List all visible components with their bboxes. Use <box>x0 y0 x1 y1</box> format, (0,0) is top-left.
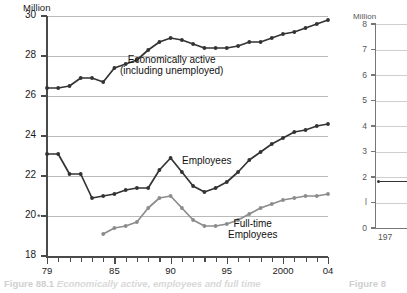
series-marker <box>45 86 49 90</box>
series-marker <box>68 172 72 176</box>
series-marker <box>135 220 139 224</box>
series-marker <box>236 44 240 48</box>
main-chart: Million 18202224262830 79859095200004 * … <box>0 0 345 270</box>
series-label-fulltime-line2: Employees <box>228 229 277 240</box>
series-marker <box>124 188 128 192</box>
side-gridline <box>376 152 407 153</box>
series-marker <box>56 86 60 90</box>
series-marker <box>304 194 308 198</box>
side-chart-y-axis <box>375 24 376 228</box>
series-label-economically-active-line2: (including unemployed) <box>120 65 223 76</box>
side-y-tick-label: 5 <box>353 96 367 104</box>
series-marker <box>247 212 251 216</box>
series-marker <box>113 226 117 230</box>
side-y-tick-label: 4 <box>353 122 367 130</box>
series-marker <box>281 32 285 36</box>
series-marker <box>259 40 263 44</box>
series-marker <box>315 124 319 128</box>
series-marker <box>326 18 330 22</box>
series-marker <box>101 80 105 84</box>
series-marker <box>191 218 195 222</box>
series-marker <box>101 232 105 236</box>
side-y-tick-label: 2 <box>353 173 367 181</box>
side-gridline <box>376 177 407 178</box>
series-marker <box>326 192 330 196</box>
series-marker <box>214 46 218 50</box>
side-y-tick-label: 0 <box>353 224 367 232</box>
series-marker <box>180 170 184 174</box>
series-marker <box>292 30 296 34</box>
series-marker <box>225 180 229 184</box>
series-marker <box>90 196 94 200</box>
series-marker <box>304 26 308 30</box>
series-label-employees: Employees <box>182 156 231 167</box>
series-marker <box>191 42 195 46</box>
series-marker <box>191 184 195 188</box>
series-marker <box>158 196 162 200</box>
side-chart: Million 8765432l0 197 <box>345 0 407 270</box>
series-marker <box>113 192 117 196</box>
series-label-fulltime-employees: Full-time Employees <box>228 219 277 240</box>
series-marker <box>214 224 218 228</box>
side-y-tick-label: l <box>353 198 367 206</box>
series-marker <box>225 46 229 50</box>
side-y-tick-label: 3 <box>353 147 367 155</box>
side-chart-x-axis <box>375 228 407 229</box>
series-marker <box>180 206 184 210</box>
figure-caption-side: Figure 8 <box>349 278 386 289</box>
series-marker <box>180 38 184 42</box>
figure-caption-text: Economically active, employees and full … <box>57 278 261 289</box>
series-marker <box>203 224 207 228</box>
side-gridline <box>376 50 407 51</box>
series-marker <box>270 142 274 146</box>
series-marker <box>326 122 330 126</box>
figure-caption-side-number: Figure 8 <box>349 278 386 289</box>
side-y-tick-label: 8 <box>353 20 367 28</box>
series-marker <box>124 224 128 228</box>
series-marker <box>281 198 285 202</box>
side-gridline <box>376 126 407 127</box>
series-marker <box>304 128 308 132</box>
series-marker <box>203 190 207 194</box>
side-gridline <box>376 75 407 76</box>
series-marker <box>169 194 173 198</box>
series-marker <box>146 206 150 210</box>
side-chart-series-segment <box>380 181 407 182</box>
series-label-economically-active-line1: Economically active <box>128 54 216 65</box>
series-marker <box>45 152 49 156</box>
series-marker <box>113 66 117 70</box>
series-marker <box>146 48 150 52</box>
series-marker <box>270 36 274 40</box>
series-marker <box>169 36 173 40</box>
series-marker <box>146 186 150 190</box>
series-label-economically-active: Economically active (including unemploye… <box>120 55 223 76</box>
series-marker <box>270 202 274 206</box>
series-marker <box>259 150 263 154</box>
series-marker <box>79 172 83 176</box>
series-marker <box>169 156 173 160</box>
series-marker <box>158 40 162 44</box>
side-gridline <box>376 24 407 25</box>
series-marker <box>135 186 139 190</box>
series-marker <box>236 170 240 174</box>
series-marker <box>79 76 83 80</box>
series-marker <box>203 46 207 50</box>
figure-caption-main: Figure 88.1 Economically active, employe… <box>4 278 261 289</box>
figure-container: Million 18202224262830 79859095200004 * … <box>0 0 407 293</box>
series-marker <box>292 130 296 134</box>
series-marker <box>292 196 296 200</box>
series-label-fulltime-line1: Full-time <box>234 218 272 229</box>
series-marker <box>158 168 162 172</box>
side-gridline <box>376 203 407 204</box>
series-marker <box>101 194 105 198</box>
series-marker <box>315 22 319 26</box>
series-line-2 <box>103 194 328 234</box>
series-marker <box>247 40 251 44</box>
side-gridline <box>376 101 407 102</box>
figure-caption-number: Figure 88.1 <box>4 278 54 289</box>
side-chart-x-tick-label: 197 <box>378 232 392 242</box>
series-marker <box>214 186 218 190</box>
series-marker <box>315 194 319 198</box>
series-marker <box>56 152 60 156</box>
series-marker <box>90 76 94 80</box>
